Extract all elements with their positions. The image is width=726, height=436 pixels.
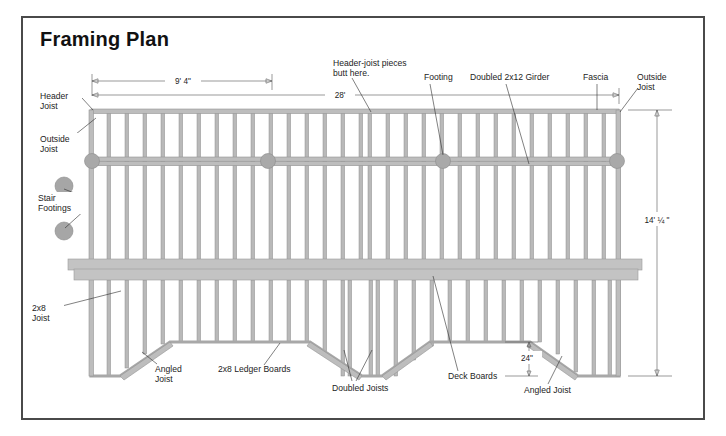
joist [125,280,129,368]
callout-fascia-label: Fascia [583,72,609,82]
joist [574,280,578,372]
callout-angled-joist-left: Angled Joist [155,364,182,384]
joist-doubled [369,280,373,376]
callout-outside-joist-right: Outside Joist [637,72,667,92]
joist [197,280,201,342]
joist [305,112,309,260]
doubled-2x12-girder [91,157,619,161]
callout-header-joist: Header Joist [38,90,82,112]
leader-outside-joist-right [620,88,638,112]
joist [584,112,588,260]
joist [161,280,165,344]
joist [359,112,363,260]
footing [85,154,100,169]
joist [197,112,201,260]
callout-doubled-girder-label: Doubled 2x12 Girder [470,72,549,82]
joist [466,280,470,342]
dimension-28: 28' [92,88,619,104]
callout-deck-boards-label: Deck Boards [448,371,497,381]
callout-2x8-joist-line2: Joist [32,313,50,323]
joist [494,112,498,260]
joist [305,280,309,342]
joist [179,280,183,342]
joist [287,112,291,260]
callout-outside-joist-left: Outside Joist [38,133,86,155]
callout-deck-boards: Deck Boards [448,371,497,381]
callout-outside-joist-right-line1: Outside [637,72,667,82]
joist [394,280,398,376]
callout-angled-joist-left-line1: Angled [155,364,182,374]
joists-upper-group [107,112,606,260]
joist [215,112,219,260]
callout-outside-joist-left-line1: Outside [40,134,70,144]
callout-2x8-joist-line1: 2x8 [32,303,46,313]
joist [512,112,516,260]
joist [608,280,612,376]
joist [440,112,444,260]
dimension-label-14-quarter: 14' ¼ " [645,216,670,225]
stair-footing [55,222,73,240]
joist [476,112,480,260]
leader-deck-boards [433,276,458,371]
callout-stair-footings-line1: Stair [38,193,56,203]
callout-footing: Footing [424,72,453,82]
framing-plan-page: Framing Plan [0,0,726,436]
joist [161,112,165,260]
joist [502,280,506,342]
joist [412,280,416,360]
leader-ledger-boards [264,343,280,365]
footing [261,154,276,169]
callout-header-joist-line2: Joist [40,101,58,111]
doubled-2x12-girder-second-ply [91,162,619,166]
joist [430,280,434,346]
framing-plan-drawing: 9' 4" 28' 14' ¼ " [0,0,726,436]
callout-footing-label: Footing [424,72,453,82]
joist [404,112,408,260]
joist [269,112,273,260]
joist [602,112,606,260]
footing [436,154,451,169]
dimension-label-24: 24" [521,354,533,363]
dimension-9-4: 9' 4" [92,74,272,96]
joist-doubled [348,280,352,376]
callout-header-joist-butt: Header-joist pieces butt here. [333,58,407,78]
joist [323,280,327,354]
footing [610,154,625,169]
joist-doubled [376,280,380,376]
joist [269,280,273,342]
callout-header-joist-butt-line1: Header-joist pieces [333,58,407,68]
joist [143,112,147,260]
joist [458,112,462,260]
dimension-label-28: 28' [335,91,346,100]
joist [556,280,560,354]
callout-outside-joist-left-line2: Joist [40,144,58,154]
callout-outside-joist-right-line2: Joist [637,82,655,92]
callout-header-joist-line1: Header [40,91,68,101]
joist [484,280,488,342]
callout-angled-joist-right: Angled Joist [524,385,571,395]
ledger-board-lower [74,269,638,280]
callout-ledger-boards: 2x8 Ledger Boards [218,364,291,374]
callout-doubled-joists-label: Doubled Joists [332,383,388,393]
leader-doubled-girder [506,84,529,164]
ledger-board-upper [68,259,642,270]
joist [538,280,542,342]
joist [251,112,255,260]
callout-angled-joist-right-label: Angled Joist [524,385,571,395]
joist [548,112,552,260]
joist [323,112,327,260]
angled-joist-right-outer [382,342,433,380]
deck-frame-group [55,109,642,380]
joist [125,112,129,260]
angled-joist-left-inner [307,342,362,380]
callout-header-joist-butt-line2: butt here. [333,68,369,78]
joist [520,280,524,342]
joist [233,112,237,260]
joist [287,280,291,342]
callout-stair-footings: Stair Footings [36,192,86,214]
callout-angled-joist-left-line2: Joist [155,374,173,384]
outside-joist-left [89,110,94,376]
joist [143,280,147,354]
callout-doubled-joists: Doubled Joists [332,383,388,393]
joist [386,112,390,260]
